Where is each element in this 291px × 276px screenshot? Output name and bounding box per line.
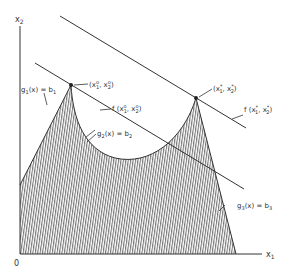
local-point-label: (xo1, xo2) [89, 79, 114, 90]
x-axis-label: x1 [266, 250, 275, 260]
global-optimum-point [194, 96, 198, 100]
constraint-g2-label: g2(x) = b2 [97, 130, 132, 139]
constraint-g1-label: g1(x) = b1 [21, 86, 56, 95]
constraint-g3-label: g3(x) = b3 [237, 202, 272, 211]
origin-label: 0 [14, 259, 19, 268]
feasible-region-diagram: x2 x1 0 (xo1, xo2) (x*1, x*2) f (xo1, xo… [0, 0, 291, 276]
objective-contour-optimum [60, 16, 246, 128]
y-axis-label: x2 [15, 15, 24, 25]
local-optimum-point [69, 83, 73, 87]
optimum-point-label: (x*1, x*2) [213, 83, 237, 94]
local-contour-label: f (xo1, xo2) [112, 103, 142, 114]
optimum-contour-label: f (x*1, x*2) [244, 104, 273, 115]
